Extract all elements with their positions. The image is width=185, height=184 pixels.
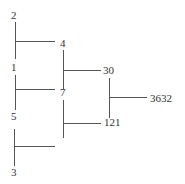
root-label-3632: 3632	[150, 93, 172, 104]
connector-to-empty	[14, 146, 55, 147]
node-label-121: 121	[104, 117, 121, 128]
bracket-vertical-30-121	[109, 78, 110, 118]
leaf-label-2: 2	[11, 10, 17, 21]
leaf-label-3: 3	[11, 167, 17, 178]
connector-to-121	[64, 123, 101, 124]
leaf-label-1: 1	[11, 62, 17, 73]
leaf-label-5: 5	[11, 111, 17, 122]
bracket-vertical-1-5	[15, 75, 16, 110]
connector-to-7	[15, 89, 55, 90]
bracket-vertical-7-empty	[63, 100, 64, 138]
connector-to-4	[15, 41, 55, 42]
bracket-vertical-5-3	[14, 129, 15, 166]
tree-diagram: 2 1 5 3 4 7 30 121 3632	[0, 0, 185, 184]
node-label-30: 30	[103, 65, 114, 76]
node-label-4: 4	[60, 38, 66, 49]
connector-to-30	[64, 70, 101, 71]
connector-to-3632	[110, 97, 147, 98]
